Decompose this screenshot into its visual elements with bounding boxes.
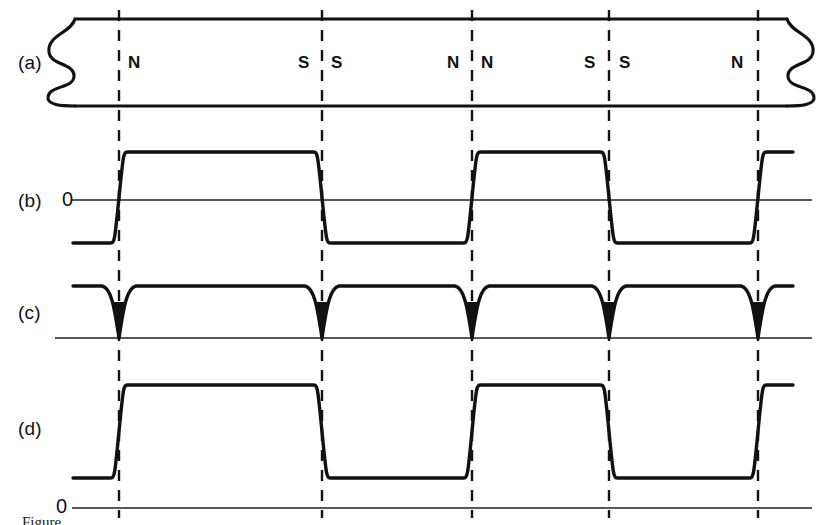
tape-left-break-icon: [48, 19, 75, 106]
axis-line-group: [55, 200, 812, 508]
pole-label-n-0: N: [128, 53, 140, 73]
panel-label-c: (c): [18, 302, 41, 324]
waveform-trace-b: [73, 152, 793, 243]
figure-caption: Figure: [22, 514, 817, 525]
figure-root: (a) (b) (c) (d) 0 0 NSSNNSSN Figure: [0, 0, 821, 525]
waveform-trace-c: [73, 286, 793, 338]
pole-label-s-6: S: [619, 53, 630, 73]
pole-label-s-5: S: [584, 53, 595, 73]
panel-label-d: (d): [18, 418, 42, 440]
pole-label-s-2: S: [331, 53, 342, 73]
waveform-c-dip-spikes: [113, 302, 764, 338]
tape-right-break-icon: [787, 19, 814, 106]
pole-label-n-3: N: [447, 53, 459, 73]
pole-label-n-4: N: [481, 53, 493, 73]
pole-label-n-7: N: [731, 53, 743, 73]
pole-label-s-1: S: [298, 53, 309, 73]
zero-label-b: 0: [62, 188, 73, 211]
transition-line-group: [119, 10, 758, 518]
figure-canvas: [0, 0, 821, 525]
panel-label-b: (b): [18, 190, 42, 212]
waveform-trace-d: [73, 385, 793, 478]
tape-strip: [48, 19, 814, 106]
panel-label-a: (a): [18, 52, 42, 74]
